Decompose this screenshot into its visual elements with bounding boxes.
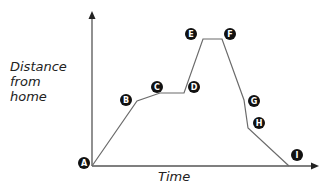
svg-text:G: G — [251, 97, 258, 106]
svg-text:B: B — [123, 96, 129, 105]
distance-time-graph: ABCDEFGHI — [0, 0, 335, 193]
axes — [89, 11, 320, 170]
svg-text:H: H — [256, 119, 263, 128]
point-marker-i: I — [291, 149, 303, 161]
svg-text:F: F — [227, 30, 232, 39]
svg-text:A: A — [81, 159, 88, 168]
point-marker-e: E — [185, 28, 197, 40]
point-marker-g: G — [248, 95, 260, 107]
point-marker-f: F — [224, 28, 236, 40]
point-marker-h: H — [253, 117, 265, 129]
svg-text:C: C — [154, 83, 160, 92]
point-marker-c: C — [151, 81, 163, 93]
point-marker-d: D — [188, 81, 200, 93]
svg-text:D: D — [191, 83, 198, 92]
y-axis-arrow-icon — [89, 11, 96, 19]
svg-text:I: I — [296, 151, 299, 160]
point-marker-b: B — [120, 94, 132, 106]
point-marker-a: A — [78, 157, 90, 169]
svg-text:E: E — [188, 30, 193, 39]
x-axis-arrow-icon — [311, 163, 319, 170]
